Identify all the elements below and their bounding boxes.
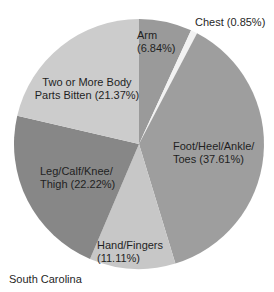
chart-footer-south-carolina: South Carolina xyxy=(9,273,82,286)
slice-label-hand-fingers: Hand/Fingers (11.11%) xyxy=(97,239,163,264)
slice-label-chest: Chest (0.85%) xyxy=(195,16,265,29)
slice-label-foot-heel-ankle-toes: Foot/Heel/Ankle/ Toes (37.61%) xyxy=(173,140,254,165)
slice-label-two-or-more-body-parts: Two or More Body Parts Bitten (21.37%) xyxy=(22,76,152,101)
pie-chart-figure: Chest (0.85%) Arm (6.84%) Two or More Bo… xyxy=(0,0,274,292)
slice-label-leg-calf-knee-thigh: Leg/Calf/Knee/ Thigh (22.22%) xyxy=(40,165,115,190)
slice-label-arm: Arm (6.84%) xyxy=(137,29,176,54)
